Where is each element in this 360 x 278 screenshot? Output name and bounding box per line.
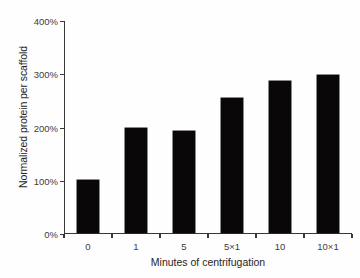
y-tick-mark — [60, 21, 64, 22]
x-tick-mark — [303, 234, 304, 238]
y-tick-label: 400% — [34, 16, 58, 27]
x-tick-label: 0 — [85, 241, 90, 252]
x-tick-mark — [159, 234, 160, 238]
y-tick-mark — [60, 181, 64, 182]
y-tick-label: 300% — [34, 69, 58, 80]
x-tick-label: 5 — [181, 241, 186, 252]
y-tick-label: 0% — [44, 229, 58, 240]
x-tick-label: 1 — [133, 241, 138, 252]
x-tick-mark — [63, 234, 64, 238]
bar-chart-figure: Normalized protein per scaffold 0%100%20… — [0, 0, 360, 278]
x-tick-mark — [255, 234, 256, 238]
y-axis-spine — [64, 21, 65, 234]
y-tick-mark — [60, 74, 64, 75]
x-tick-label: 5×1 — [224, 241, 240, 252]
bar — [317, 75, 339, 233]
plot-area: 0%100%200%300%400% 0155×11010×1 — [64, 21, 352, 234]
x-axis-title: Minutes of centrifugation — [64, 256, 352, 268]
x-tick-label: 10 — [275, 241, 286, 252]
y-axis-title: Normalized protein per scaffold — [14, 0, 32, 234]
bar — [221, 98, 243, 233]
bar — [173, 131, 195, 233]
y-tick-mark — [60, 128, 64, 129]
y-tick-label: 200% — [34, 122, 58, 133]
x-tick-mark — [111, 234, 112, 238]
x-tick-mark — [207, 234, 208, 238]
bar — [269, 81, 291, 233]
y-tick-label: 100% — [34, 175, 58, 186]
x-tick-label: 10×1 — [317, 241, 338, 252]
bar — [125, 128, 147, 233]
x-tick-mark — [351, 234, 352, 238]
bar — [77, 180, 99, 233]
